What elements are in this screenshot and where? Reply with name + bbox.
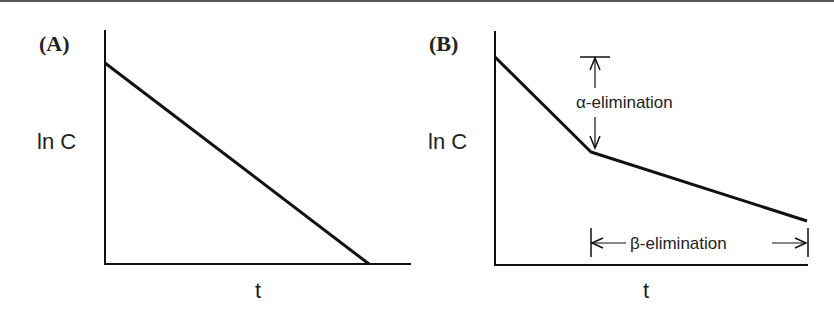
alpha-elimination-label: α-elimination (576, 93, 673, 112)
panel-b-line (495, 57, 807, 221)
alpha-elimination-marker: α-elimination (576, 57, 673, 148)
panel-a-y-label: ln C (37, 129, 76, 154)
panel-a: (A) ln C t (37, 30, 411, 303)
panel-a-x-label: t (255, 278, 261, 303)
beta-elimination-marker: β-elimination (591, 228, 808, 257)
panel-b-label: (B) (429, 31, 458, 56)
panel-b-x-label: t (643, 278, 649, 303)
panel-a-line (105, 63, 369, 264)
figure-canvas: (A) ln C t (B) ln C t α-elimination (0, 0, 834, 324)
panel-a-label: (A) (39, 31, 70, 56)
panel-b: (B) ln C t α-elimination β-elimination (428, 31, 808, 303)
beta-elimination-label: β-elimination (630, 234, 727, 253)
panel-b-y-label: ln C (428, 129, 467, 154)
